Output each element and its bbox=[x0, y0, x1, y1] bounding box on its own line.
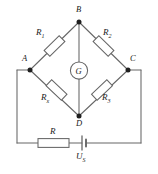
resistor-label-r-text: R bbox=[50, 126, 56, 136]
resistor-label-r1-subscript: 1 bbox=[42, 33, 45, 39]
resistor-label-r2-subscript: 2 bbox=[109, 33, 112, 39]
battery-label: US bbox=[76, 152, 86, 163]
resistor-r-body bbox=[38, 139, 69, 148]
node-label-a: A bbox=[22, 54, 27, 63]
resistor-label-r3: R3 bbox=[102, 93, 111, 104]
resistor-label-r1: R1 bbox=[36, 28, 45, 39]
circuit-schematic-canvas bbox=[0, 0, 158, 174]
resistor-label-r: R bbox=[50, 127, 56, 138]
circuit-diagram-figure: B A C D R1 R2 Rx R3 G R US bbox=[0, 0, 158, 174]
node-dot-b bbox=[77, 20, 82, 25]
resistor-label-rx: Rx bbox=[41, 93, 49, 104]
resistor-r2-body bbox=[93, 36, 114, 57]
node-label-d: D bbox=[76, 119, 82, 128]
node-dot-c bbox=[126, 68, 131, 73]
resistor-label-r2: R2 bbox=[103, 28, 112, 39]
resistor-r1-body bbox=[44, 36, 65, 57]
galvanometer-label: G bbox=[76, 66, 82, 76]
node-label-b: B bbox=[76, 5, 81, 14]
battery-label-subscript: S bbox=[83, 157, 86, 163]
node-label-c: C bbox=[130, 54, 136, 63]
resistor-label-r3-subscript: 3 bbox=[108, 98, 111, 104]
resistor-rx-body bbox=[46, 80, 67, 100]
node-dot-a bbox=[28, 68, 33, 73]
resistor-label-rx-subscript: x bbox=[47, 98, 50, 104]
